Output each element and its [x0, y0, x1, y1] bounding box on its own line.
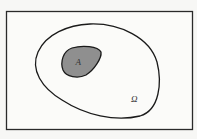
set-a-label: A [75, 57, 82, 67]
universe-label: Ω [131, 94, 138, 104]
venn-diagram: A Ω [0, 0, 197, 139]
frame-border [7, 12, 193, 130]
